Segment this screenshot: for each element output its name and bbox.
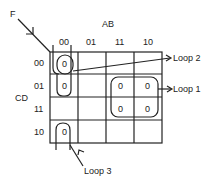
cell-01-11: 0 [118, 81, 123, 91]
row-header-10: 10 [34, 127, 44, 137]
cell-11-11: 0 [118, 104, 123, 114]
row-header-01: 01 [34, 81, 44, 91]
row-variable-label: CD [15, 93, 28, 103]
cell-01-10: 0 [145, 81, 150, 91]
function-label: F [10, 9, 16, 19]
loop-3-label: Loop 3 [84, 166, 112, 176]
cell-01-00: 0 [62, 81, 67, 91]
column-header-10: 10 [143, 37, 153, 47]
loop-2-pointer [73, 58, 170, 71]
column-header-01: 01 [86, 37, 96, 47]
row-header-00: 00 [34, 58, 44, 68]
column-header-00: 00 [59, 37, 69, 47]
function-arrow [18, 19, 50, 52]
loop-3-pointer [70, 145, 83, 166]
cell-11-10: 0 [145, 104, 150, 114]
row-header-11: 11 [34, 104, 43, 114]
column-variable-label: AB [102, 19, 114, 29]
cell-10-00: 0 [62, 127, 67, 137]
loop-1-label: Loop 1 [173, 84, 201, 94]
loop-2-label: Loop 2 [173, 53, 201, 63]
column-header-11: 11 [115, 37, 124, 47]
cell-00-00: 0 [62, 59, 67, 69]
